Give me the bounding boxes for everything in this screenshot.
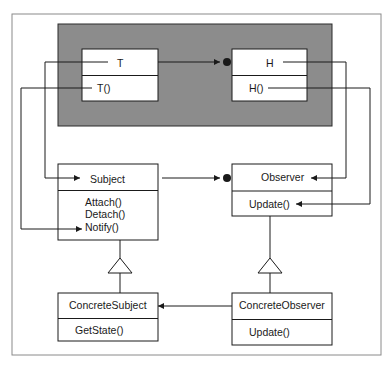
class-t-method: T() (97, 82, 110, 94)
class-t-name: T (117, 57, 124, 69)
class-concrete-subject: ConcreteSubject GetState() (58, 293, 158, 341)
cropped-caption (14, 362, 314, 366)
class-observer-name: Observer (261, 171, 305, 183)
class-h-name: H (266, 57, 274, 69)
assoc-dot-icon (223, 174, 231, 182)
class-h-method: H() (249, 82, 264, 94)
class-t: T T() (82, 49, 158, 101)
uml-diagram: T T() H H() Subject Attach() Detach() No… (0, 0, 390, 366)
subject-method-detach: Detach() (85, 208, 125, 220)
class-concrete-observer-name: ConcreteObserver (239, 299, 325, 311)
class-concrete-observer: ConcreteObserver Update() (232, 293, 332, 345)
class-h: H H() (232, 49, 307, 101)
assoc-dot-icon (223, 58, 231, 66)
subject-method-notify: Notify() (85, 221, 119, 233)
concrete-observer-method-update: Update() (249, 326, 290, 338)
class-subject-name: Subject (90, 173, 125, 185)
observer-method-update: Update() (249, 198, 290, 210)
subject-method-attach: Attach() (85, 196, 122, 208)
concrete-subject-method-getstate: GetState() (75, 324, 123, 336)
class-observer: Observer Update() (232, 164, 332, 216)
class-concrete-subject-name: ConcreteSubject (69, 299, 147, 311)
